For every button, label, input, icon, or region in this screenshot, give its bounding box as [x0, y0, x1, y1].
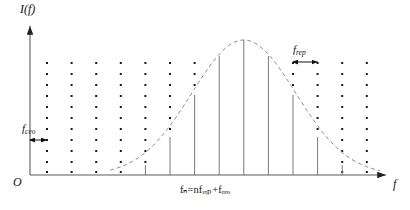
comb-dot	[366, 139, 368, 141]
comb-dot	[341, 106, 343, 108]
gaussian-envelope	[110, 40, 380, 171]
comb-dot	[169, 84, 171, 86]
comb-dot	[317, 73, 319, 75]
comb-dot	[46, 117, 48, 119]
comb-dot	[144, 106, 146, 108]
comb-dot	[71, 84, 73, 86]
origin-label: O	[13, 176, 22, 188]
comb-dot	[144, 139, 146, 141]
comb-dot	[95, 106, 97, 108]
comb-dot	[366, 62, 368, 64]
comb-dot	[366, 117, 368, 119]
comb-dot	[120, 139, 122, 141]
comb-dot	[341, 73, 343, 75]
comb-teeth-group	[46, 40, 368, 175]
comb-dot	[95, 139, 97, 141]
comb-dot	[317, 84, 319, 86]
comb-dot	[120, 161, 122, 163]
comb-dot	[95, 161, 97, 163]
comb-dot	[71, 62, 73, 64]
ceo-subscript: ceo	[25, 127, 35, 136]
comb-dot	[46, 161, 48, 163]
comb-dot	[95, 84, 97, 86]
comb-dot	[120, 150, 122, 152]
comb-dot	[95, 150, 97, 152]
comb-dot	[120, 95, 122, 97]
comb-dot	[71, 95, 73, 97]
comb-dot	[144, 62, 146, 64]
comb-dot	[46, 84, 48, 86]
comb-dot	[144, 128, 146, 130]
comb-dot	[292, 84, 294, 86]
comb-dot	[366, 106, 368, 108]
comb-dot	[144, 161, 146, 163]
comb-dot	[317, 117, 319, 119]
comb-dot	[46, 128, 48, 130]
comb-dot	[169, 117, 171, 119]
comb-dot	[120, 62, 122, 64]
comb-dot	[194, 73, 196, 75]
comb-dot	[144, 95, 146, 97]
comb-dot	[71, 117, 73, 119]
comb-dot	[71, 106, 73, 108]
comb-dot	[46, 95, 48, 97]
comb-dot	[366, 128, 368, 130]
rep-annotation-label: frep	[293, 44, 306, 55]
comb-dot	[46, 150, 48, 152]
comb-dot	[292, 73, 294, 75]
y-axis-label: I(f)	[20, 3, 35, 15]
comb-dot	[169, 73, 171, 75]
comb-dot	[120, 106, 122, 108]
figure-canvas: I(f) f O fceo frep fₙ=nfᵣₑₚ+fₑₑₒ	[0, 0, 410, 210]
comb-formula-label: fₙ=nfᵣₑₚ+fₑₑₒ	[180, 185, 230, 196]
comb-dot	[95, 95, 97, 97]
comb-dot	[169, 128, 171, 130]
comb-spectrum-plot	[0, 0, 410, 210]
ceo-annotation-label: fceo	[22, 123, 35, 134]
comb-dot	[194, 84, 196, 86]
comb-dot	[95, 117, 97, 119]
comb-dot	[366, 73, 368, 75]
comb-dot	[341, 139, 343, 141]
comb-dot	[95, 62, 97, 64]
comb-dot	[194, 62, 196, 64]
comb-dot	[169, 62, 171, 64]
comb-dot	[366, 161, 368, 163]
comb-dot	[95, 171, 97, 173]
comb-dot	[71, 139, 73, 141]
comb-dot	[341, 95, 343, 97]
comb-dot	[95, 128, 97, 130]
comb-dot	[120, 84, 122, 86]
comb-dot	[317, 95, 319, 97]
comb-dot	[46, 73, 48, 75]
comb-dot	[71, 128, 73, 130]
comb-dot	[317, 128, 319, 130]
comb-dot	[366, 95, 368, 97]
comb-dot	[46, 62, 48, 64]
comb-dot	[341, 117, 343, 119]
comb-dot	[144, 73, 146, 75]
comb-dot	[341, 84, 343, 86]
comb-dot	[144, 84, 146, 86]
comb-dot	[169, 95, 171, 97]
comb-dot	[46, 171, 48, 173]
comb-dot	[120, 73, 122, 75]
comb-dot	[366, 84, 368, 86]
comb-dot	[46, 106, 48, 108]
comb-dot	[341, 62, 343, 64]
comb-dot	[71, 73, 73, 75]
comb-dot	[144, 117, 146, 119]
comb-dot	[341, 128, 343, 130]
comb-dot	[71, 161, 73, 163]
comb-dot	[341, 161, 343, 163]
comb-dot	[120, 117, 122, 119]
comb-dot	[71, 171, 73, 173]
comb-dot	[144, 150, 146, 152]
comb-dot	[366, 171, 368, 173]
comb-dot	[317, 106, 319, 108]
x-axis-label: f	[393, 178, 396, 190]
comb-dot	[95, 73, 97, 75]
comb-dot	[120, 128, 122, 130]
comb-dot	[366, 150, 368, 152]
comb-dot	[120, 171, 122, 173]
